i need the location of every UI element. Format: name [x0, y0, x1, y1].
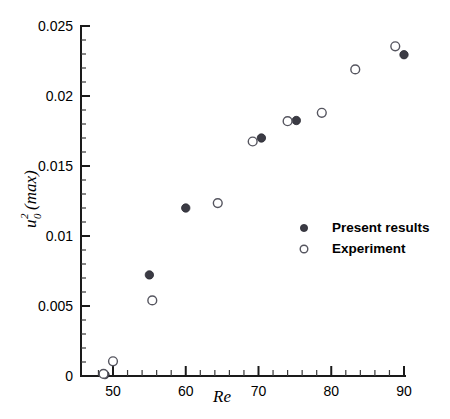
data-point-experiment: [109, 357, 118, 366]
data-point-experiment: [317, 108, 326, 117]
y-tick-label: 0.01: [46, 228, 73, 244]
data-point-present-results: [257, 134, 265, 142]
x-tick-label: 80: [323, 383, 339, 399]
data-point-experiment: [283, 117, 292, 126]
y-axis-title-tail: (max): [21, 170, 40, 210]
data-point-experiment: [99, 370, 108, 379]
x-tick-label: 90: [396, 383, 412, 399]
x-tick-label: 60: [178, 383, 194, 399]
y-tick-label: 0.015: [38, 158, 73, 174]
y-axis-title-subscript: 0: [31, 213, 43, 219]
x-tick-label: 50: [105, 383, 121, 399]
data-point-experiment: [391, 42, 400, 51]
axis-ticks: [81, 26, 404, 376]
data-point-experiment: [213, 199, 222, 208]
data-point-present-results: [145, 271, 153, 279]
data-point-experiment: [248, 137, 257, 146]
x-axis-title: Re: [212, 387, 231, 406]
axis-titles: Reu20(max): [18, 170, 231, 406]
legend-marker-experiment: [300, 245, 308, 253]
scatter-chart: 00.0050.010.0150.020.0255060708090 Prese…: [0, 0, 450, 419]
data-point-experiment: [351, 65, 360, 74]
axes: [81, 26, 405, 376]
y-axis-title-base: u: [21, 220, 40, 229]
y-axis-title-superscript: 2: [18, 213, 30, 219]
legend-label: Present results: [332, 220, 430, 235]
legend-label: Experiment: [332, 241, 406, 256]
y-axis-title: u20(max): [18, 170, 43, 228]
x-tick-label: 70: [251, 383, 267, 399]
data-point-present-results: [182, 204, 190, 212]
y-tick-label: 0: [65, 368, 73, 384]
data-points: [99, 42, 408, 379]
y-tick-label: 0.005: [38, 298, 73, 314]
y-tick-label: 0.02: [46, 88, 73, 104]
plot-area: 00.0050.010.0150.020.0255060708090 Prese…: [0, 0, 450, 419]
data-point-present-results: [400, 51, 408, 59]
y-tick-label: 0.025: [38, 18, 73, 34]
data-point-present-results: [292, 116, 300, 124]
axis-tick-labels: 00.0050.010.0150.020.0255060708090: [38, 18, 412, 399]
legend-marker-present-results: [300, 224, 307, 231]
chart-legend: Present resultsExperiment: [300, 220, 429, 256]
data-point-experiment: [148, 296, 157, 305]
